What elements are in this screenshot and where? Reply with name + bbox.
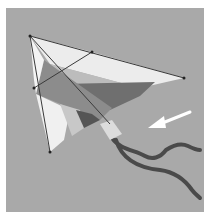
kite-illustration (0, 0, 214, 220)
arrow-pointer-icon (148, 112, 190, 128)
kite-tail-connector (100, 120, 122, 140)
kite-tails (112, 138, 200, 198)
